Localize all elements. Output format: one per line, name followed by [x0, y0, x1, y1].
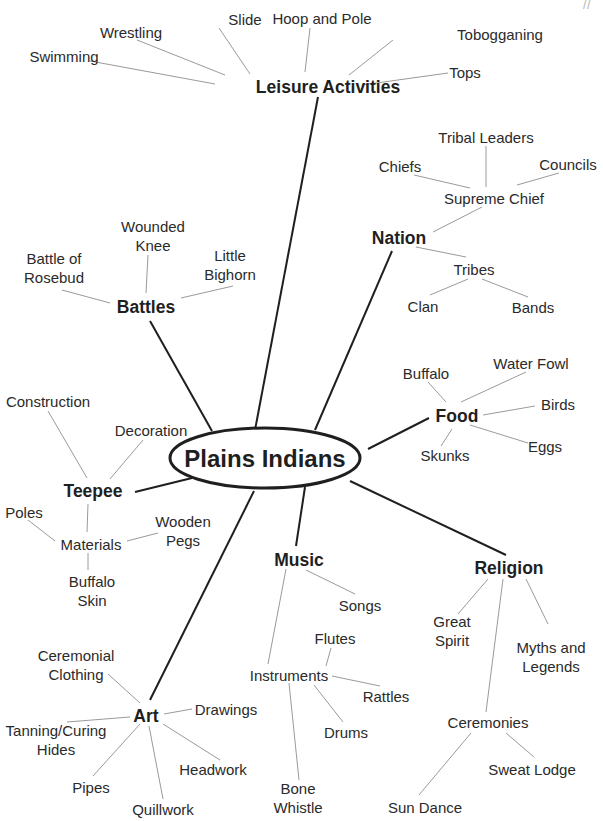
- node-supreme-chief: Supreme Chief: [444, 189, 544, 208]
- node-clan: Clan: [408, 297, 439, 316]
- category-music: Music: [274, 551, 324, 570]
- node-ceremonial-clothing: Ceremonial Clothing: [26, 646, 126, 684]
- node-materials: Materials: [61, 535, 122, 554]
- node-flutes: Flutes: [315, 629, 356, 648]
- category-religion: Religion: [474, 559, 543, 578]
- node-slide: Slide: [228, 10, 261, 29]
- node-buffalo-skin: Buffalo Skin: [62, 572, 122, 610]
- node-drawings: Drawings: [195, 700, 258, 719]
- node-birds: Birds: [541, 395, 575, 414]
- category-leisure-activities: Leisure Activities: [256, 78, 400, 97]
- link-center-religion: [350, 481, 506, 555]
- node-water-fowl: Water Fowl: [493, 354, 568, 373]
- node-decoration: Decoration: [115, 421, 188, 440]
- node-skunks: Skunks: [420, 446, 469, 465]
- node-sun-dance: Sun Dance: [388, 798, 462, 817]
- node-wooden-pegs: Wooden Pegs: [148, 512, 218, 550]
- node-quillwork: Quillwork: [132, 800, 194, 819]
- node-chiefs: Chiefs: [379, 157, 422, 176]
- category-teepee: Teepee: [63, 482, 122, 501]
- corner-mark: //: [583, 0, 591, 12]
- node-tanning-curing-hides: Tanning/Curing Hides: [1, 721, 111, 759]
- node-bone-whistle: Bone Whistle: [268, 779, 328, 817]
- node-little-bighorn: Little Bighorn: [195, 246, 265, 284]
- node-wrestling: Wrestling: [100, 23, 162, 42]
- node-eggs: Eggs: [528, 437, 562, 456]
- node-sweat-lodge: Sweat Lodge: [488, 760, 576, 779]
- node-ceremonies: Ceremonies: [448, 713, 529, 732]
- node-great-spirit: Great Spirit: [427, 612, 477, 650]
- node-councils: Councils: [539, 155, 597, 174]
- link-center-teepee: [135, 478, 192, 492]
- link-center-music: [296, 487, 305, 546]
- node-battle-of-rosebud: Battle of Rosebud: [9, 249, 99, 287]
- node-myths-and-legends: Myths and Legends: [516, 638, 586, 676]
- center-node-plains-indians: Plains Indians: [184, 449, 345, 468]
- node-pipes: Pipes: [72, 778, 110, 797]
- node-drums: Drums: [324, 723, 368, 742]
- node-wounded-knee: Wounded Knee: [108, 217, 198, 255]
- category-battles: Battles: [117, 298, 175, 317]
- node-headwork: Headwork: [179, 760, 247, 779]
- category-art: Art: [133, 707, 158, 726]
- node-construction: Construction: [6, 392, 90, 411]
- category-food: Food: [436, 407, 479, 426]
- node-tribal-leaders: Tribal Leaders: [438, 128, 533, 147]
- node-songs: Songs: [339, 596, 382, 615]
- node-hoop-and-pole: Hoop and Pole: [272, 9, 371, 28]
- link-center-food: [368, 418, 429, 449]
- link-center-nation: [315, 251, 392, 430]
- node-bands: Bands: [512, 298, 555, 317]
- node-tops: Tops: [449, 63, 481, 82]
- node-buffalo-food: Buffalo: [403, 364, 449, 383]
- node-tribes: Tribes: [453, 260, 494, 279]
- category-nation: Nation: [372, 229, 426, 248]
- node-rattles: Rattles: [363, 687, 410, 706]
- node-tobogganing: Tobogganing: [457, 25, 543, 44]
- link-center-battles: [150, 321, 212, 431]
- node-instruments: Instruments: [250, 666, 328, 685]
- node-poles: Poles: [5, 503, 43, 522]
- node-swimming: Swimming: [29, 47, 98, 66]
- mind-map-connectors: [0, 0, 603, 821]
